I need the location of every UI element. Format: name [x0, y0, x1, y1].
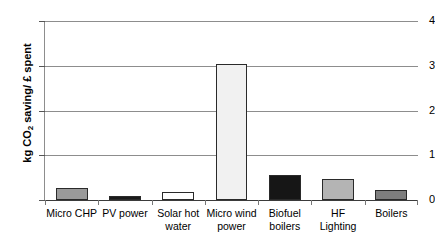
x-axis-label-boilers: Boilers: [365, 207, 418, 220]
x-axis-label-line: Micro wind: [205, 207, 258, 220]
x-tick-5: [311, 200, 312, 205]
x-axis-label-line: power: [205, 220, 258, 233]
y-axis-title: kg CO2 saving/ £ spent: [21, 13, 35, 193]
x-tick-1: [98, 200, 99, 205]
bar-micro-wind-power: [216, 64, 248, 200]
bar-biofuel-boilers: [269, 175, 301, 200]
bar-chart: kg CO2 saving/ £ spent 01234 Micro CHPPV…: [0, 0, 435, 245]
x-axis-labels: Micro CHPPV powerSolar hotwaterMicro win…: [45, 207, 418, 245]
plot-area: [45, 21, 418, 200]
x-axis-label-line: Boilers: [365, 207, 418, 220]
x-tick-4: [258, 200, 259, 205]
y-axis-title-subscript: 2: [26, 126, 35, 130]
bar-boilers: [375, 190, 407, 200]
gridline-4: [45, 21, 418, 22]
x-axis-label-line: Biofuel: [258, 207, 311, 220]
x-axis-label-line: PV power: [98, 207, 151, 220]
y-axis-title-pre: kg CO: [21, 130, 33, 162]
x-tick-6: [365, 200, 366, 205]
x-tick-3: [205, 200, 206, 205]
x-axis-label-hf-lighting: HFLighting: [311, 207, 364, 232]
bar-solar-hot-water: [162, 192, 194, 200]
x-tick-2: [152, 200, 153, 205]
x-axis-ticks: [45, 200, 418, 206]
x-axis-label-line: boilers: [258, 220, 311, 233]
x-axis-label-line: Micro CHP: [45, 207, 98, 220]
x-tick-0: [45, 200, 46, 205]
y-axis-title-post: saving/ £ spent: [21, 43, 33, 126]
bar-micro-chp: [56, 188, 88, 200]
x-axis-label-micro-wind-power: Micro windpower: [205, 207, 258, 232]
bar-hf-lighting: [322, 179, 354, 200]
x-tick-7: [417, 200, 418, 205]
x-axis-label-biofuel-boilers: Biofuelboilers: [258, 207, 311, 232]
x-axis-label-micro-chp: Micro CHP: [45, 207, 98, 220]
x-axis-label-line: water: [152, 220, 205, 233]
x-axis-label-solar-hot-water: Solar hotwater: [152, 207, 205, 232]
x-axis-label-line: Solar hot: [152, 207, 205, 220]
x-axis-label-line: Lighting: [311, 220, 364, 233]
x-axis-label-pv-power: PV power: [98, 207, 151, 220]
x-axis-label-line: HF: [311, 207, 364, 220]
